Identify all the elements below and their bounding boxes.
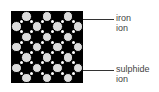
interstitial-dot bbox=[41, 72, 44, 75]
iron-leader-line bbox=[83, 19, 114, 20]
interstitial-dot bbox=[20, 72, 23, 75]
sulphide-ion-label: sulphide ion bbox=[116, 64, 150, 84]
interstitial-dot bbox=[72, 61, 75, 64]
iron-label-line2: ion bbox=[116, 23, 131, 33]
interstitial-dot bbox=[61, 72, 64, 75]
iron-ion-label: iron ion bbox=[116, 13, 131, 33]
interstitial-dot bbox=[41, 41, 44, 44]
sulphide-label-line2: ion bbox=[116, 74, 150, 84]
iron-label-line1: iron bbox=[116, 13, 131, 23]
ionic-lattice bbox=[11, 11, 83, 83]
interstitial-dot bbox=[41, 51, 44, 54]
interstitial-dot bbox=[51, 72, 54, 75]
interstitial-dot bbox=[20, 41, 23, 44]
interstitial-dot bbox=[72, 41, 75, 44]
sulphide-label-line1: sulphide bbox=[116, 64, 150, 74]
interstitial-dot bbox=[72, 20, 75, 23]
interstitial-dot bbox=[51, 41, 54, 44]
interstitial-dot bbox=[41, 20, 44, 23]
iron-ion bbox=[63, 63, 74, 74]
sulphide-leader-line bbox=[83, 70, 114, 71]
interstitial-dot bbox=[72, 72, 75, 75]
interstitial-dot bbox=[72, 51, 75, 54]
interstitial-dot bbox=[51, 51, 54, 54]
